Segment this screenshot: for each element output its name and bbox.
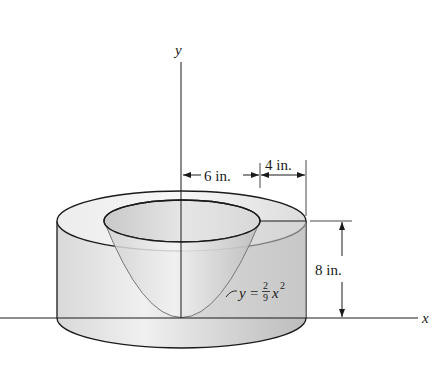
svg-text:=: =: [250, 285, 258, 301]
dimension-inner-radius: 6 in.: [183, 163, 260, 188]
dimension-height: 8 in.: [310, 221, 352, 317]
svg-text:y: y: [237, 285, 246, 301]
svg-text:9: 9: [263, 292, 268, 303]
y-axis-label: y: [173, 42, 182, 58]
svg-text:2: 2: [263, 280, 268, 291]
svg-text:x: x: [271, 285, 279, 301]
label-6in: 6 in.: [204, 168, 231, 184]
label-4in: 4 in.: [265, 157, 292, 173]
label-8in: 8 in.: [315, 262, 342, 278]
cylinder-paraboloid-diagram: y x 6 in. 4 in. 8 in. y = 2 9 x 2: [0, 0, 448, 374]
svg-text:2: 2: [280, 280, 285, 291]
x-axis-label: x: [421, 310, 429, 326]
